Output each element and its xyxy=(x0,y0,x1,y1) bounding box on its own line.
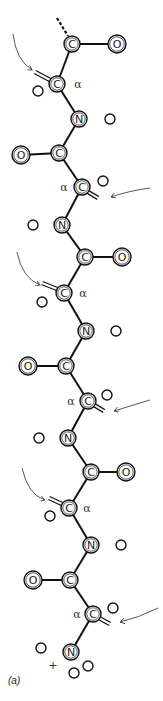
carbon-atom: C xyxy=(64,36,80,52)
carbon-atom: C xyxy=(77,249,93,265)
hydrogen-atom xyxy=(34,433,44,443)
atom-symbol: N xyxy=(64,432,72,445)
atom-symbol: C xyxy=(68,38,76,51)
atom-symbol: O xyxy=(24,360,33,373)
alpha-carbon-atom: C xyxy=(80,393,96,409)
side-chain-bond xyxy=(36,71,51,79)
atom-symbol: C xyxy=(87,466,95,479)
hydrogen-atom xyxy=(37,297,47,307)
side-chain-bond xyxy=(43,282,58,288)
atom-symbol: C xyxy=(53,78,61,91)
atom-symbol: C xyxy=(60,287,68,300)
alpha-carbon-atom: C xyxy=(61,500,77,516)
panel-label: (a) xyxy=(8,675,20,686)
curved-arrow-icon xyxy=(17,252,40,285)
dashed-bond xyxy=(57,18,68,36)
nitrogen-atom: N xyxy=(71,111,87,127)
carbon-atom: C xyxy=(51,145,67,161)
alpha-carbon-atom: C xyxy=(56,285,72,301)
atom-symbol: C xyxy=(62,360,70,373)
alpha-carbon-atom: C xyxy=(85,606,101,622)
atom-symbol: N xyxy=(58,219,66,232)
hydrogen-atom xyxy=(108,603,118,613)
atom-symbol: N xyxy=(67,646,75,659)
positive-charge-label: + xyxy=(48,659,57,672)
side-chain-bond xyxy=(50,497,63,503)
alpha-label: α xyxy=(60,181,68,194)
atom-symbol: N xyxy=(82,325,90,338)
polypeptide-diagram: COCNCOCNCOCNCOCNCOCNCOCN αααααα + (a) xyxy=(0,0,163,701)
oxygen-atom: O xyxy=(117,463,135,481)
side-chain-bond xyxy=(41,284,56,290)
curved-arrow-icon xyxy=(114,400,150,411)
atom-symbol: O xyxy=(122,466,131,479)
oxygen-atom: O xyxy=(12,146,30,164)
atom-symbol: O xyxy=(118,251,127,264)
nitrogen-atom: N xyxy=(54,217,70,233)
hydrogen-atom xyxy=(111,326,121,336)
curved-arrow-icon xyxy=(13,34,32,70)
atom-symbol: N xyxy=(87,539,95,552)
atom-symbol: C xyxy=(84,395,92,408)
hydrogen-atom xyxy=(98,176,108,186)
alpha-carbon-atom: C xyxy=(74,179,90,195)
hydrogen-atom xyxy=(28,220,38,230)
nitrogen-atom: N xyxy=(78,323,94,339)
nitrogen-atom: N xyxy=(83,537,99,553)
alpha-label: α xyxy=(74,78,82,91)
hydrogen-atom xyxy=(116,540,126,550)
alpha-carbon-atom: C xyxy=(49,76,65,92)
atom-symbol: C xyxy=(65,502,73,515)
oxygen-atom: O xyxy=(24,571,42,589)
hydrogen-atom xyxy=(45,511,55,521)
atom-symbol: O xyxy=(113,38,122,51)
side-chain-bond xyxy=(48,499,61,505)
atom-symbol: C xyxy=(55,147,63,160)
chain-continuation-dashes xyxy=(57,18,68,36)
hydrogen-atom xyxy=(83,661,93,671)
curved-arrow-icon xyxy=(120,608,158,622)
backbone-bonds xyxy=(21,44,126,652)
atom-symbol: C xyxy=(66,574,74,587)
atom-symbol: C xyxy=(89,608,97,621)
nitrogen-atom: N xyxy=(60,430,76,446)
atom-symbol: N xyxy=(75,113,83,126)
carbon-atom: C xyxy=(62,572,78,588)
atom-symbol: O xyxy=(29,574,38,587)
atom-symbol: O xyxy=(17,149,26,162)
hydrogen-atom xyxy=(33,86,43,96)
alpha-label: α xyxy=(79,287,87,300)
alpha-label: α xyxy=(73,608,81,621)
hydrogen-atom xyxy=(69,668,79,678)
atom-symbol: C xyxy=(81,251,89,264)
hydrogen-atom xyxy=(36,643,46,653)
side-chain-bond xyxy=(34,73,49,81)
carbon-atom: C xyxy=(58,358,74,374)
oxygen-atom: O xyxy=(19,357,37,375)
alpha-label: α xyxy=(67,395,75,408)
hydrogen-atom xyxy=(102,390,112,400)
curved-arrow-icon xyxy=(111,188,150,197)
atom-symbol: C xyxy=(78,181,86,194)
nitrogen-atom: N xyxy=(63,644,79,660)
hydrogen-atom xyxy=(105,114,115,124)
oxygen-atom: O xyxy=(108,35,126,53)
oxygen-atom: O xyxy=(113,248,131,266)
alpha-label: α xyxy=(83,502,91,515)
carbon-atom: C xyxy=(83,464,99,480)
curved-arrow-icon xyxy=(22,468,45,500)
